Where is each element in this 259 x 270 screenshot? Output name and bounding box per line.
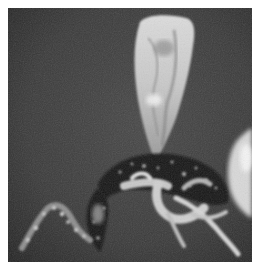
specimen-illustration — [8, 8, 252, 262]
film-grain — [8, 8, 252, 262]
specimen-photo — [8, 8, 252, 262]
